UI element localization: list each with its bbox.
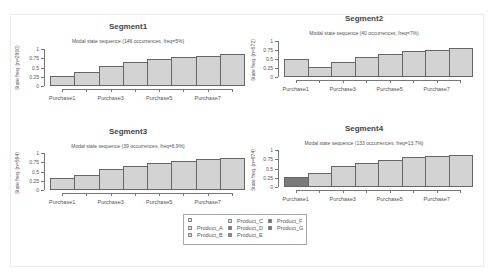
legend-label: Product_C bbox=[237, 218, 263, 224]
y-tick-label: 0 bbox=[259, 74, 273, 80]
legend-item bbox=[188, 218, 197, 222]
x-tick-mark bbox=[135, 193, 136, 196]
x-axis bbox=[296, 80, 461, 81]
legend-item: Product_C bbox=[228, 218, 263, 224]
y-tick-mark bbox=[41, 153, 44, 154]
x-tick-mark bbox=[111, 193, 112, 196]
chart-subtitle: Modal state sequence (40 occurrences, fr… bbox=[246, 30, 482, 36]
x-tick-mark bbox=[232, 193, 233, 196]
x-tick-label: Purchase3 bbox=[330, 196, 356, 202]
y-tick-label: 0.25 bbox=[25, 74, 39, 80]
x-axis bbox=[62, 89, 232, 90]
chart-panel-segment2: Segment2Modal state sequence (40 occurre… bbox=[246, 8, 482, 113]
y-tick-label: 0.5 bbox=[25, 65, 39, 71]
bar-purchase1 bbox=[284, 177, 309, 187]
x-tick-mark bbox=[390, 190, 391, 193]
y-tick-mark bbox=[41, 77, 44, 78]
x-tick-mark bbox=[319, 80, 320, 83]
bar-purchase3 bbox=[331, 62, 356, 77]
y-axis bbox=[44, 153, 45, 190]
x-tick-mark bbox=[86, 89, 87, 92]
bar-purchase2 bbox=[74, 175, 99, 190]
bar-purchase4 bbox=[355, 57, 380, 77]
x-tick-mark bbox=[208, 89, 209, 92]
x-tick-mark bbox=[208, 193, 209, 196]
bar-purchase6 bbox=[402, 157, 427, 187]
plot-area bbox=[284, 41, 472, 77]
y-tick-label: 1 bbox=[259, 147, 273, 153]
bar-purchase8 bbox=[220, 158, 245, 190]
x-tick-mark bbox=[319, 190, 320, 193]
y-tick-mark bbox=[275, 68, 278, 69]
x-tick-label: Purchase3 bbox=[97, 199, 123, 205]
bar-purchase8 bbox=[449, 155, 474, 187]
x-tick-mark bbox=[437, 80, 438, 83]
bar-purchase5 bbox=[378, 160, 403, 187]
chart-title: Segment1 bbox=[10, 22, 246, 31]
y-tick-label: 1 bbox=[25, 150, 39, 156]
legend-label: Product_D bbox=[237, 225, 263, 231]
legend-item: Product_A bbox=[188, 225, 223, 231]
chart-subtitle: Modal state sequence (133 occurrences, f… bbox=[246, 140, 482, 146]
bar-purchase4 bbox=[123, 166, 148, 190]
legend-item: Product_G bbox=[268, 225, 303, 231]
bar-purchase4 bbox=[123, 62, 148, 86]
x-tick-mark bbox=[183, 89, 184, 92]
y-tick-mark bbox=[41, 172, 44, 173]
x-tick-label: Purchase7 bbox=[424, 196, 450, 202]
y-tick-label: 1 bbox=[259, 38, 273, 44]
y-tick-mark bbox=[275, 159, 278, 160]
bar-purchase5 bbox=[378, 54, 403, 77]
x-tick-mark bbox=[460, 190, 461, 193]
y-tick-label: 1 bbox=[25, 46, 39, 52]
legend-label: Product_F bbox=[277, 218, 302, 224]
chart-subtitle: Modal state sequence (146 occurrences, f… bbox=[10, 38, 246, 44]
y-tick-mark bbox=[41, 181, 44, 182]
x-tick-label: Purchase3 bbox=[97, 95, 123, 101]
y-tick-label: 0.25 bbox=[259, 65, 273, 71]
legend-swatch bbox=[228, 233, 232, 237]
y-tick-mark bbox=[41, 162, 44, 163]
chart-panel-segment1: Segment1Modal state sequence (146 occurr… bbox=[10, 14, 246, 119]
y-tick-label: 0.5 bbox=[259, 166, 273, 172]
y-tick-label: 0 bbox=[25, 187, 39, 193]
x-tick-mark bbox=[366, 190, 367, 193]
x-tick-label: Purchase5 bbox=[146, 95, 172, 101]
y-tick-mark bbox=[41, 68, 44, 69]
y-tick-mark bbox=[275, 187, 278, 188]
y-tick-mark bbox=[41, 190, 44, 191]
legend-label: Product_E bbox=[237, 232, 263, 238]
y-tick-label: 0.5 bbox=[25, 169, 39, 175]
chart-subtitle: Modal state sequence (39 occurrences, fr… bbox=[10, 143, 246, 149]
x-tick-mark bbox=[296, 190, 297, 193]
x-tick-mark bbox=[135, 89, 136, 92]
x-tick-label: Purchase7 bbox=[424, 86, 450, 92]
bar-purchase6 bbox=[402, 51, 427, 77]
y-tick-mark bbox=[41, 49, 44, 50]
bar-purchase2 bbox=[308, 67, 333, 77]
x-tick-mark bbox=[86, 193, 87, 196]
x-tick-label: Purchase5 bbox=[377, 86, 403, 92]
legend-item: Product_B bbox=[188, 232, 223, 238]
y-tick-label: 0.25 bbox=[259, 175, 273, 181]
bar-purchase5 bbox=[147, 59, 172, 86]
bar-purchase6 bbox=[171, 161, 196, 190]
legend-swatch bbox=[188, 233, 192, 237]
x-tick-mark bbox=[460, 80, 461, 83]
y-tick-label: 0.25 bbox=[25, 178, 39, 184]
legend-swatch bbox=[188, 218, 192, 222]
x-tick-mark bbox=[183, 193, 184, 196]
bar-purchase8 bbox=[449, 48, 474, 77]
y-tick-label: 0 bbox=[25, 83, 39, 89]
x-tick-mark bbox=[366, 80, 367, 83]
x-tick-mark bbox=[413, 80, 414, 83]
y-tick-label: 0 bbox=[259, 184, 273, 190]
y-tick-mark bbox=[275, 77, 278, 78]
y-tick-label: 0.75 bbox=[25, 55, 39, 61]
x-tick-label: Purchase1 bbox=[283, 196, 309, 202]
y-tick-mark bbox=[41, 86, 44, 87]
y-axis-label: State freq. (n=974) bbox=[250, 149, 256, 191]
bar-purchase2 bbox=[308, 173, 333, 187]
plot-area bbox=[50, 153, 244, 190]
x-axis bbox=[296, 190, 461, 191]
